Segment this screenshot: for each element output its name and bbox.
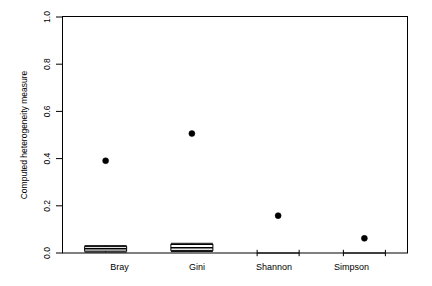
y-tick-label-3: 0.6	[42, 105, 52, 117]
outlier-point-gini-0	[189, 131, 195, 137]
x-tick-label-bray: Bray	[110, 262, 129, 272]
outlier-point-simpson-0	[361, 235, 367, 241]
y-axis-title: Computed heterogeneity measure	[19, 70, 29, 199]
figure-background	[0, 0, 432, 286]
plot-canvas: 0.0 0.2 0.4 0.6 0.8 1.0 Computed heterog…	[0, 0, 432, 286]
y-tick-label-1: 0.2	[42, 200, 52, 212]
x-tick-label-gini: Gini	[189, 262, 205, 272]
y-tick-label-5: 1.0	[42, 11, 52, 23]
outlier-point-bray-0	[103, 158, 109, 164]
y-tick-label-2: 0.4	[42, 152, 52, 164]
y-tick-label-4: 0.8	[42, 58, 52, 70]
outlier-point-shannon-0	[275, 213, 281, 219]
boxplot-figure: 0.0 0.2 0.4 0.6 0.8 1.0 Computed heterog…	[0, 0, 432, 286]
x-tick-label-simpson: Simpson	[334, 262, 369, 272]
x-tick-label-shannon: Shannon	[256, 262, 292, 272]
y-tick-label-0: 0.0	[42, 247, 52, 259]
